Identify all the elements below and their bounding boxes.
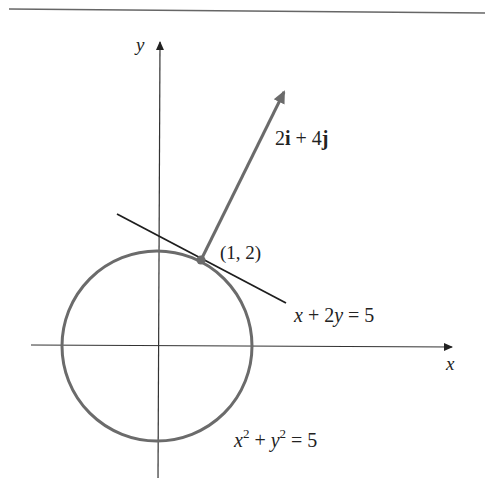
point-label: (1, 2) xyxy=(220,242,261,264)
vector-label: 2i + 4j xyxy=(275,127,329,150)
y-axis-label: y xyxy=(134,34,145,55)
tangent-label: x + 2y = 5 xyxy=(293,304,374,327)
y-axis xyxy=(158,42,160,478)
x-axis xyxy=(31,345,452,347)
diagram-canvas: y x (1, 2) 2i + 4j x + 2y = 5 x2 + y2 = … xyxy=(0,0,485,491)
circle-label: x2 + y2 = 5 xyxy=(233,426,317,452)
x-axis-label: x xyxy=(445,353,455,374)
point-marker xyxy=(197,256,206,265)
top-rule xyxy=(9,9,485,13)
gradient-vector xyxy=(201,92,284,260)
